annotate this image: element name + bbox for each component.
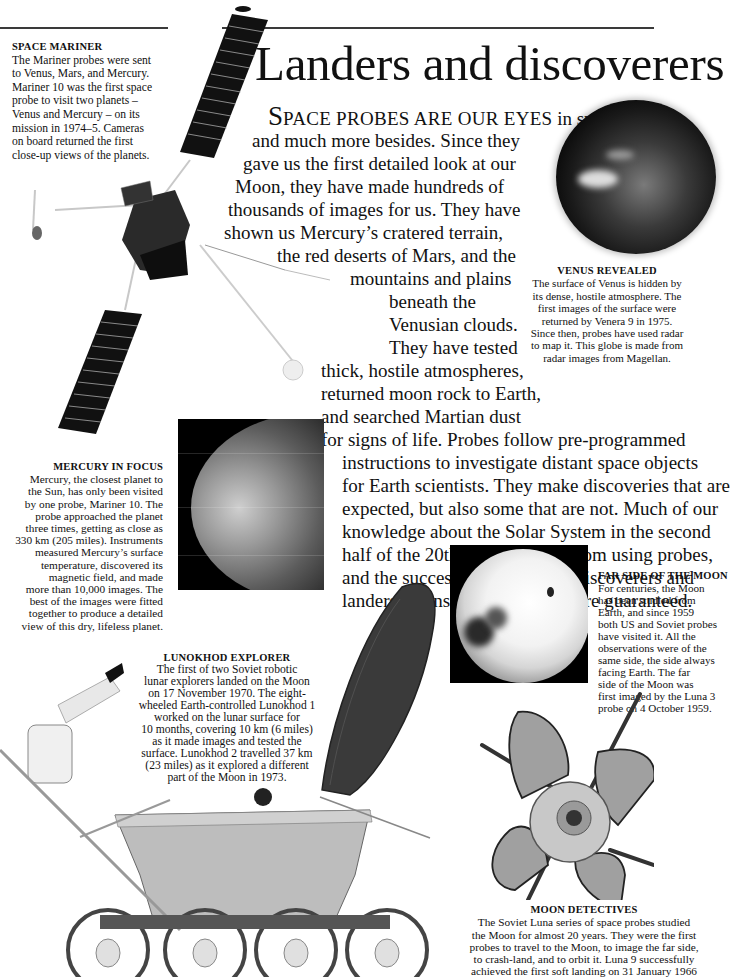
intro-line: SPACE PROBES ARE OUR EYES in space [268, 105, 619, 131]
intro-line: for signs of life. Probes follow pre-pro… [321, 429, 686, 452]
caption-line: probes to travel to the Moon, to image t… [419, 941, 734, 953]
caption-line: mission in 1974–5. Cameras [12, 122, 172, 136]
caption-heading: MERCURY IN FOCUS [2, 461, 163, 473]
intro-line: mountains and plains [350, 268, 511, 291]
caption-line: three times, getting as close as [2, 522, 163, 534]
caption-line: on board returned the first [12, 135, 172, 149]
caption-line: Since then, probes have used radar [492, 327, 722, 339]
intro-line: instructions to investigate distant spac… [342, 452, 698, 475]
caption-line: the Moon for almost 20 years. They were … [419, 929, 734, 941]
caption-line: close-up views of the planets. [12, 149, 172, 163]
intro-line: returned moon rock to Earth, [321, 383, 541, 406]
caption-line: For centuries, the Moon [598, 582, 734, 594]
caption-heading: FAR SIDE OF THE MOON [598, 570, 734, 582]
caption-line: have visited it. All the [598, 630, 734, 642]
caption-line: Mercury, the closest planet to [2, 473, 163, 485]
caption-line: by one probe, Mariner 10. The [2, 498, 163, 510]
caption-line: Venus and Mercury – on its [12, 108, 172, 122]
caption-line: The Mariner probes were sent [12, 54, 172, 68]
caption-line: achieved the first soft landing on 31 Ja… [419, 965, 734, 977]
caption-line: The Soviet Luna series of space probes s… [419, 916, 734, 928]
caption-line: has been studied from [598, 594, 734, 606]
caption-line: The surface of Venus is hidden by [492, 277, 722, 289]
luna-probe-image [460, 690, 654, 900]
page-title: Landers and discoverers [255, 36, 724, 92]
caption-line: probe to visit two planets – [12, 94, 172, 108]
caption-line: both US and Soviet probes [598, 618, 734, 630]
caption-heading: MOON DETECTIVES [419, 904, 734, 916]
caption-line: the Sun, has only been visited [2, 485, 163, 497]
intro-line: knowledge about the Solar System in the … [342, 521, 711, 544]
caption-venus: VENUS REVEALED The surface of Venus is h… [492, 265, 722, 364]
caption-line: same side, the side always [598, 654, 734, 666]
intro-line: gave us the first detailed look at our [243, 153, 516, 176]
caption-line: returned by Venera 9 in 1975. [492, 315, 722, 327]
venus-globe-image [556, 100, 716, 254]
mercury-mosaic-image [178, 419, 324, 590]
caption-space-mariner: SPACE MARINER The Mariner probes were se… [12, 40, 172, 162]
caption-line: facing Earth. The far [598, 666, 734, 678]
solar-panel-icon [58, 310, 142, 434]
intro-line: thousands of images for us. They have [228, 199, 521, 222]
caption-line: probe approached the planet [2, 510, 163, 522]
caption-line: part of the Moon in 1973. [117, 772, 337, 784]
caption-lunokhod: LUNOKHOD EXPLORER The first of two Sovie… [117, 652, 337, 784]
caption-line: 330 km (205 miles). Instruments [2, 534, 163, 546]
caption-line: to Venus, Mars, and Mercury. [12, 67, 172, 81]
caption-line: Mariner 10 was the first space [12, 81, 172, 95]
caption-line: observations were of the [598, 642, 734, 654]
caption-line: measured Mercury’s surface [2, 546, 163, 558]
intro-line: and searched Martian dust [321, 406, 521, 429]
caption-heading: VENUS REVEALED [492, 265, 722, 277]
caption-line: radar images from Magellan. [492, 352, 722, 364]
caption-heading: SPACE MARINER [12, 40, 172, 54]
intro-line: beneath the [389, 291, 476, 314]
intro-line: and much more besides. Since they [252, 130, 520, 153]
intro-line: for Earth scientists. They make discover… [342, 475, 730, 498]
far-side-moon-image [450, 545, 588, 683]
intro-line: the red deserts of Mars, and the [277, 245, 516, 268]
caption-line: its dense, hostile atmosphere. The [492, 290, 722, 302]
caption-line: to map it. This globe is made from [492, 339, 722, 351]
caption-line: Earth, and since 1959 [598, 606, 734, 618]
intro-line: Moon, they have made hundreds of [235, 176, 504, 199]
intro-line: expected, but also some that are not. Mu… [342, 498, 718, 521]
caption-line: side of the Moon was [598, 678, 734, 690]
caption-line: temperature, discovered its [2, 559, 163, 571]
caption-moon-detectives: MOON DETECTIVES The Soviet Luna series o… [419, 904, 734, 977]
intro-line: shown us Mercury’s cratered terrain, [224, 222, 503, 245]
drop-cap: S [268, 101, 283, 131]
intro-smallcaps: PACE PROBES ARE OUR EYES [283, 108, 552, 129]
caption-line: to crash-land, and to orbit it. Luna 9 s… [419, 953, 734, 965]
caption-line: first images of the surface were [492, 302, 722, 314]
